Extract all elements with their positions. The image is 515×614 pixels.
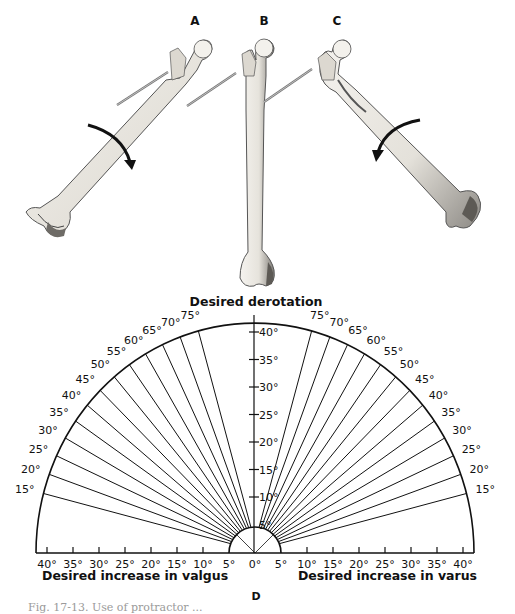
femur-c-illustration xyxy=(318,40,481,228)
arc-label-left: 25° xyxy=(29,443,49,456)
radial-line-right xyxy=(279,493,466,543)
arc-label-right: 75° xyxy=(310,309,330,322)
radial-line-left xyxy=(162,345,246,529)
radial-line-left xyxy=(49,474,231,541)
arc-label-left: 20° xyxy=(21,463,41,476)
arc-label-left: 75° xyxy=(181,309,201,322)
arc-label-right: 40° xyxy=(429,389,449,402)
derotation-label: 35° xyxy=(259,354,279,367)
pin-b-highlight xyxy=(187,73,236,106)
inner-diagonal-left xyxy=(237,535,255,553)
panel-label-a: A xyxy=(190,14,200,28)
radial-line-right xyxy=(266,354,365,529)
derotation-label: 30° xyxy=(259,381,279,394)
radial-line-right xyxy=(268,365,381,531)
arc-label-right: 45° xyxy=(415,373,435,386)
radial-line-left xyxy=(65,438,234,538)
arc-label-left: 30° xyxy=(38,424,58,437)
arc-label-right: 50° xyxy=(400,358,420,371)
radial-line-right xyxy=(275,421,435,536)
femur-a-illustration xyxy=(26,40,212,237)
radial-line-left xyxy=(76,421,236,536)
derotation-label: 5° xyxy=(259,519,272,532)
radial-line-right xyxy=(277,456,453,540)
protractor-title: Desired derotation xyxy=(190,294,323,309)
radial-line-left xyxy=(146,354,245,529)
arc-label-right: 20° xyxy=(469,463,489,476)
arc-label-right: 25° xyxy=(462,443,482,456)
arc-label-left: 50° xyxy=(91,358,111,371)
derotation-label: 10° xyxy=(259,491,279,504)
arc-label-left: 45° xyxy=(76,373,96,386)
figure-caption: Fig. 17-13. Use of protractor ... xyxy=(28,601,203,614)
baseline-label-right: 5° xyxy=(275,558,288,571)
radial-line-left xyxy=(87,405,237,534)
radial-line-left xyxy=(114,377,240,532)
arc-label-left: 65° xyxy=(142,324,162,337)
radial-line-left xyxy=(198,331,251,527)
radial-line-right xyxy=(270,377,396,532)
radial-line-right xyxy=(273,405,423,534)
arc-label-right: 55° xyxy=(384,345,404,358)
varus-axis-label: Desired increase in varus xyxy=(298,568,477,583)
protractor-diagram: 15°15°20°20°25°25°30°30°35°35°40°40°45°4… xyxy=(15,309,495,571)
derotation-label: 25° xyxy=(259,409,279,422)
inner-diagonal-right xyxy=(255,535,273,553)
panel-label-c: C xyxy=(333,14,342,28)
valgus-axis-label: Desired increase in valgus xyxy=(42,568,228,583)
arc-label-right: 70° xyxy=(329,316,349,329)
radial-line-left xyxy=(100,390,238,532)
femur-b-illustration xyxy=(240,39,274,286)
panel-label-d: D xyxy=(251,590,260,603)
radial-line-right xyxy=(271,390,409,532)
arc-label-right: 65° xyxy=(348,324,368,337)
radial-line-right xyxy=(278,474,460,541)
radial-line-left xyxy=(43,493,230,543)
arc-label-right: 30° xyxy=(452,424,472,437)
arc-label-right: 35° xyxy=(441,406,461,419)
pin-c-highlight xyxy=(264,69,312,102)
radial-line-right xyxy=(276,438,445,538)
arc-label-left: 70° xyxy=(161,316,181,329)
arc-label-left: 15° xyxy=(15,483,35,496)
baseline-label-center: 0° xyxy=(249,558,262,571)
panel-label-b: B xyxy=(259,14,268,28)
derotation-label: 15° xyxy=(259,464,279,477)
radial-line-left xyxy=(57,456,233,540)
radial-line-left xyxy=(129,365,242,531)
arc-label-left: 55° xyxy=(107,345,127,358)
derotation-label: 40° xyxy=(259,326,279,339)
arc-label-left: 60° xyxy=(124,334,144,347)
derotation-label: 20° xyxy=(259,436,279,449)
arc-label-left: 35° xyxy=(49,406,69,419)
arc-label-right: 15° xyxy=(476,483,496,496)
arc-label-right: 60° xyxy=(366,334,386,347)
arc-label-left: 40° xyxy=(62,389,82,402)
